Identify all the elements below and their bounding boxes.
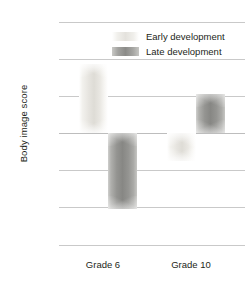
gridline--0.2 [59, 207, 245, 208]
bar-cap-bottom-icon [79, 120, 108, 133]
bar-grade10-late-development[interactable] [196, 94, 225, 133]
bar-cap-bottom-icon [196, 120, 225, 133]
gridline--0.1 [59, 170, 245, 171]
legend-label-early-development: Early development [146, 30, 225, 43]
legend: Early development Late development [112, 30, 225, 60]
legend-swatch-late-development-icon [112, 47, 139, 56]
bar-cap-bottom-icon [167, 148, 196, 161]
gridline--0.3 [59, 245, 245, 246]
bar-cap-top-icon [108, 133, 137, 146]
body-image-score-bar-chart: Body image score +0.3 +0.2 +0.1 Mean −0.… [0, 0, 249, 281]
bar-grade6-early-development[interactable] [79, 64, 108, 133]
bar-cap-bottom-icon [108, 196, 137, 209]
bar-cap-top-icon [79, 64, 108, 77]
bar-grade10-early-development[interactable] [167, 133, 196, 161]
legend-item-early-development[interactable]: Early development [112, 30, 225, 43]
x-tick-label-grade-6: Grade 6 [58, 259, 148, 270]
bar-cap-top-icon [167, 133, 196, 146]
bar-grade6-late-development[interactable] [108, 133, 137, 209]
x-tick-label-grade-10: Grade 10 [146, 259, 236, 270]
legend-item-late-development[interactable]: Late development [112, 45, 225, 58]
legend-label-late-development: Late development [146, 45, 222, 58]
gridline-mean [59, 133, 245, 134]
gridline-0.3 [59, 22, 245, 23]
y-axis-title: Body image score [18, 54, 29, 194]
bar-cap-top-icon [196, 94, 225, 107]
legend-swatch-early-development-icon [112, 32, 139, 41]
